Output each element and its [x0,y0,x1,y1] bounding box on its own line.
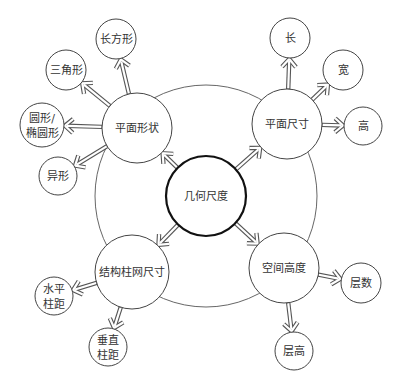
arrow-center-to-branch-3 [235,223,257,243]
leaf-node-2-1-label-line2: 柱距 [97,348,119,362]
leaf-node-0-2-label-line1: 圆形/ [29,112,55,125]
branch-node-2: 结构柱网尺寸 [95,235,169,309]
branch-node-3-label: 空间高度 [262,261,306,275]
leaf-node-0-0: 长方形 [96,19,136,59]
leaf-node-2-0-label-line1: 水平 [43,283,65,296]
center-node: 几何尺度 [166,156,246,236]
arrow-branch-3-to-leaf-1 [284,303,298,331]
leaf-node-0-0-label: 长方形 [100,32,133,46]
leaf-node-1-0: 长 [270,18,310,58]
arrow-branch-0-to-leaf-0 [116,59,130,93]
leaf-node-2-0-label-line2: 柱距 [43,297,65,311]
center-node-label: 几何尺度 [184,189,228,203]
arrow-branch-1-to-leaf-1 [312,85,328,100]
leaf-node-0-3-label: 异形 [47,170,69,183]
leaf-node-1-2-label: 高 [358,119,369,133]
branch-node-3: 空间高度 [249,233,319,303]
leaf-node-3-1: 层高 [275,332,313,370]
leaf-node-3-0-label: 层数 [350,277,372,290]
mind-map-canvas: 几何尺度平面形状长方形三角形圆形/椭圆形异形平面尺寸长宽高结构柱网尺寸水平柱距垂… [0,0,394,384]
leaf-node-0-2: 圆形/椭圆形 [20,103,64,147]
arrow-center-to-branch-1 [236,148,260,170]
leaf-node-1-1-label: 宽 [338,63,349,77]
leaf-node-3-0: 层数 [341,263,381,303]
arrow-branch-0-to-leaf-2 [65,119,102,133]
arrow-center-to-branch-0 [163,153,178,168]
arrow-branch-2-to-leaf-1 [110,307,123,328]
branch-node-0: 平面形状 [102,93,172,163]
leaf-node-2-1-label-line1: 垂直 [97,333,119,347]
leaf-node-0-1: 三角形 [46,50,86,90]
leaf-node-1-0-label: 长 [285,32,296,45]
node-layer: 几何尺度平面形状长方形三角形圆形/椭圆形异形平面尺寸长宽高结构柱网尺寸水平柱距垂… [20,18,382,370]
leaf-node-1-1: 宽 [323,50,363,90]
arrow-center-to-branch-2 [159,225,179,245]
arrow-branch-1-to-leaf-2 [322,118,343,132]
leaf-node-0-1-label: 三角形 [50,64,83,77]
arrow-branch-1-to-leaf-0 [282,59,296,89]
branch-node-0-label: 平面形状 [115,121,159,135]
leaf-node-0-2-circle [20,103,64,147]
leaf-node-2-1: 垂直柱距 [89,328,127,366]
leaf-node-1-2: 高 [344,107,382,145]
arrow-branch-2-to-leaf-0 [73,281,97,294]
branch-node-1-label: 平面尺寸 [265,117,309,131]
arrow-branch-3-to-leaf-0 [318,271,340,285]
branch-node-1: 平面尺寸 [252,89,322,159]
leaf-node-2-0: 水平柱距 [35,277,73,315]
branch-node-2-label: 结构柱网尺寸 [99,265,165,279]
leaf-node-0-3: 异形 [39,157,77,195]
leaf-node-3-1-label: 层高 [283,344,305,358]
leaf-node-0-2-label-line2: 椭圆形 [26,126,59,140]
arrow-branch-0-to-leaf-1 [82,83,110,106]
